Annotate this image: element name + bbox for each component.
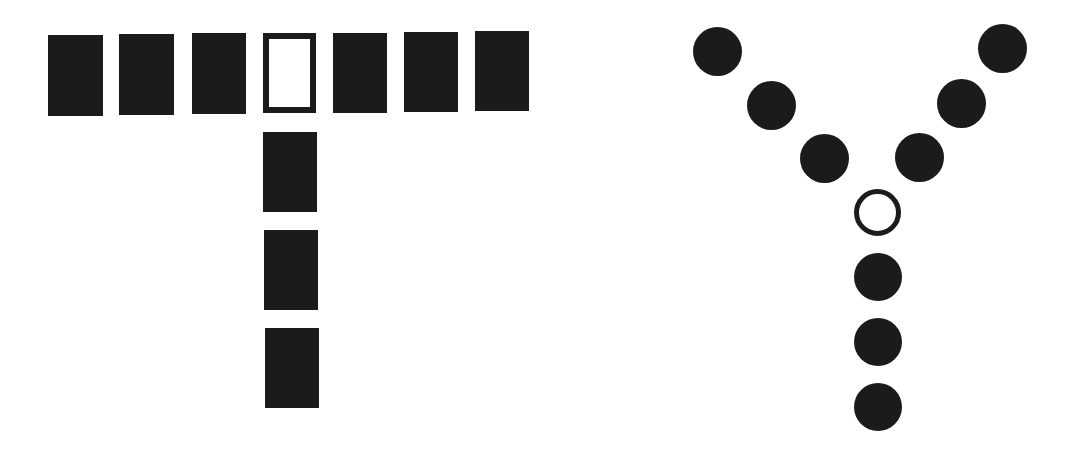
filled-circle	[978, 24, 1027, 73]
filled-circle	[895, 133, 944, 182]
hollow-circle	[854, 189, 901, 236]
filled-rectangle	[119, 34, 174, 115]
hollow-rectangle	[263, 33, 316, 113]
filled-rectangle	[404, 32, 458, 112]
filled-rectangle	[475, 31, 529, 111]
filled-circle	[800, 134, 849, 183]
filled-rectangle	[48, 35, 103, 116]
filled-circle	[937, 79, 986, 128]
filled-circle	[747, 81, 796, 130]
filled-rectangle	[263, 132, 317, 212]
filled-circle	[854, 253, 902, 301]
filled-rectangle	[192, 33, 246, 114]
filled-circle	[854, 383, 902, 431]
filled-rectangle	[265, 328, 319, 408]
filled-circle	[854, 318, 902, 366]
filled-rectangle	[264, 230, 318, 310]
filled-rectangle	[333, 33, 387, 113]
filled-circle	[693, 27, 742, 76]
figure-canvas	[0, 0, 1070, 450]
